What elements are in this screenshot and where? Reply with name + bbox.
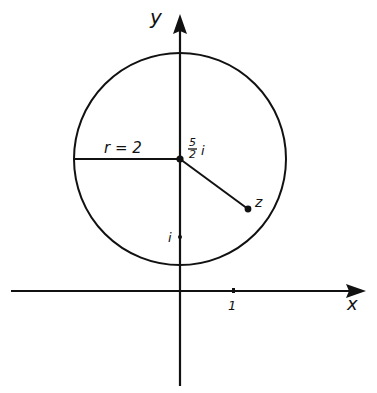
point-z-label: z <box>254 194 263 210</box>
tick-one <box>232 288 235 293</box>
center-to-z-line <box>180 159 248 209</box>
radius-label: r = 2 <box>104 139 142 157</box>
diagram-canvas: y x 1 i r = 2 5 2 i z <box>0 0 377 393</box>
y-axis-label: y <box>149 5 163 29</box>
x-axis-label: x <box>346 293 358 314</box>
center-label-denominator: 2 <box>189 148 196 161</box>
center-point <box>176 155 183 162</box>
center-label-i: i <box>201 143 205 158</box>
point-i <box>178 235 182 239</box>
y-axis-arrow-icon <box>173 14 187 34</box>
tick-one-label: 1 <box>228 298 236 313</box>
point-z <box>245 206 252 213</box>
tick-i-label: i <box>168 230 172 245</box>
